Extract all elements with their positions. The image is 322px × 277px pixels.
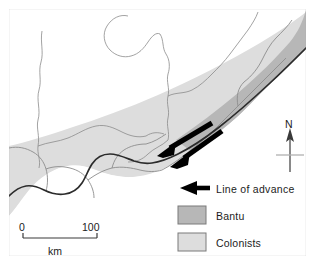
north-arrow-label: N [285, 119, 293, 130]
legend-label-bantu: Bantu [216, 211, 244, 222]
scale-bar-max-label: 100 [82, 222, 100, 233]
legend-label-line-of-advance: Line of advance [216, 184, 295, 195]
legend-swatch-colonists [178, 233, 206, 251]
scale-bar-unit-label: km [48, 246, 62, 257]
legend-label-colonists: Colonists [216, 238, 261, 249]
map-canvas [0, 0, 322, 277]
map-figure: Line of advance Bantu Colonists 0 100 km… [0, 0, 322, 277]
scale-bar-min-label: 0 [19, 222, 25, 233]
map-body [9, 9, 307, 257]
legend-swatch-bantu [178, 206, 206, 224]
